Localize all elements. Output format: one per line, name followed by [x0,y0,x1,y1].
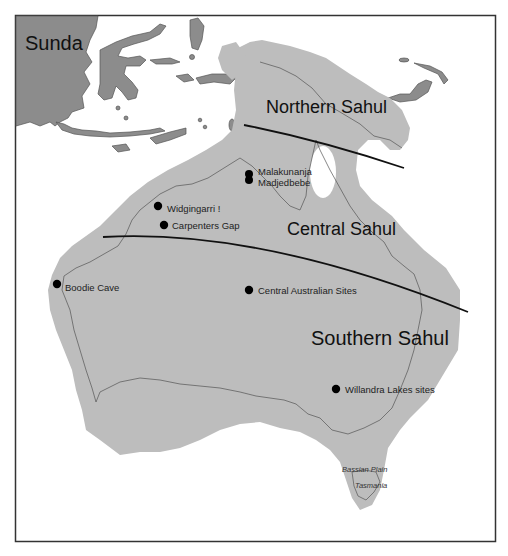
site-marker-carpenters-gap [160,221,168,229]
site-marker-central-australian-sites [245,286,253,294]
region-label-northern-sahul: Northern Sahul [266,97,387,117]
sahul-map: Sunda Northern Sahul Central Sahul South… [0,0,508,556]
gulf-of-carpentaria [310,146,336,198]
site-label-carpenters-gap: Carpenters Gap [172,220,240,231]
region-label-central-sahul: Central Sahul [287,219,396,239]
site-marker-boodie-cave [53,280,61,288]
site-marker-widgingarri [154,202,162,210]
site-marker-madjedbebe [245,176,253,184]
site-label-malakunanja: Malakunanja [258,166,313,177]
site-marker-willandra-lakes [332,385,340,393]
label-tasmania: Tasmania [355,481,387,490]
site-label-willandra-lakes: Willandra Lakes sites [345,384,435,395]
label-bassian-plain: Bassian Plain [342,465,387,474]
site-label-widgingarri: Widgingarri ! [167,203,220,214]
region-label-sunda: Sunda [25,32,84,54]
site-label-central-australian-sites: Central Australian Sites [258,285,357,296]
region-label-southern-sahul: Southern Sahul [311,327,449,349]
site-label-boodie-cave: Boodie Cave [65,282,119,293]
site-label-madjedbebe: Madjedbebe [258,177,310,188]
